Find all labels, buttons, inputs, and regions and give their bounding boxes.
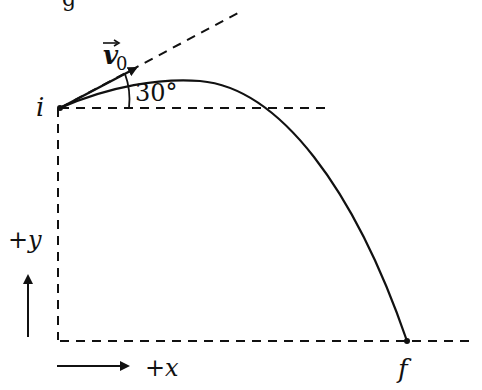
velocity-subscript: 0 xyxy=(116,53,127,74)
initial-point xyxy=(57,105,63,111)
final-point-label: f xyxy=(396,354,412,384)
final-point xyxy=(404,338,410,344)
angle-label: 30° xyxy=(135,79,178,107)
projectile-diagram: g i f v 0 30° +y +x xyxy=(0,0,482,390)
x-axis-label: +x xyxy=(145,354,179,382)
angle-arc xyxy=(125,74,130,108)
y-axis-label: +y xyxy=(8,226,42,254)
trajectory-curve xyxy=(60,80,407,341)
clipped-heading: g xyxy=(62,0,76,11)
initial-point-label: i xyxy=(36,92,44,122)
